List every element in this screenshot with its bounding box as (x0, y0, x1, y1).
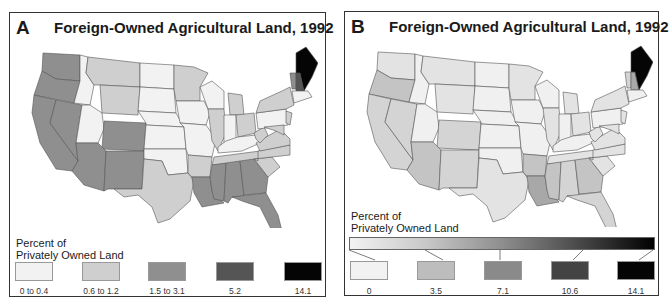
legend-label: 0 to 0.4 (4, 286, 64, 296)
state-oh (236, 113, 256, 137)
legend-swatch-class-5 (284, 262, 322, 281)
us-map-unclassed (363, 42, 653, 227)
state-fl (567, 192, 617, 227)
us-map-classed (28, 43, 318, 228)
panel-letter: B (351, 16, 365, 38)
state-fl (232, 193, 282, 228)
state-ar (523, 154, 547, 176)
legend-label: 3.5 (406, 286, 466, 296)
state-nj (621, 110, 627, 124)
state-mi (228, 93, 244, 115)
legend-label: 1.5 to 3.1 (137, 286, 197, 296)
panel-letter: A (16, 17, 30, 39)
state-vt (625, 72, 631, 88)
state-sd (138, 87, 176, 113)
state-mt (86, 57, 140, 87)
legend-label: 7.1 (473, 286, 533, 296)
state-nd (140, 63, 174, 89)
legend-label: 14.1 (273, 286, 333, 296)
legend-swatch-14-1 (617, 261, 655, 280)
state-ny (591, 86, 629, 112)
state-nm (439, 150, 479, 190)
state-ar (188, 155, 212, 177)
legend-swatch-0 (350, 261, 388, 280)
legend-title: Percent of Privately Owned Land (16, 237, 124, 261)
state-ma-ct-ri (292, 91, 312, 103)
state-wy (435, 84, 475, 114)
state-az (72, 143, 106, 191)
legend-label: 0.6 to 1.2 (71, 286, 131, 296)
state-nd (475, 62, 509, 88)
state-co (102, 121, 146, 151)
state-mi (563, 92, 579, 114)
panel-a-classed-map: A Foreign-Owned Agricultural Land, 1992 (9, 12, 326, 297)
legend-swatch-class-4 (216, 262, 254, 281)
map-title: Foreign-Owned Agricultural Land, 1992 (54, 19, 334, 36)
state-nm (104, 151, 144, 191)
state-mt (421, 56, 475, 86)
legend-label: 5.2 (205, 286, 265, 296)
state-wy (100, 85, 140, 115)
legend-swatch-3-5 (417, 261, 455, 280)
legend-swatch-10-6 (551, 261, 589, 280)
state-ma-ct-ri (627, 90, 647, 102)
legend-swatch-class-3 (148, 262, 186, 281)
state-vt (290, 73, 296, 89)
panel-b-unclassed-map: B Foreign-Owned Agricultural Land, 1992 (344, 11, 659, 296)
state-nj (286, 111, 292, 125)
legend-label: 0 (339, 286, 399, 296)
state-ia (511, 100, 545, 124)
state-az (407, 142, 441, 190)
legend-label: 10.6 (540, 286, 600, 296)
legend-label: 14.1 (606, 286, 666, 296)
state-co (437, 120, 481, 150)
legend-swatch-class-1 (15, 262, 53, 281)
map-title: Foreign-Owned Agricultural Land, 1992 (389, 18, 669, 35)
state-ks (144, 125, 186, 149)
state-sd (473, 86, 511, 112)
state-oh (571, 112, 591, 136)
legend-title: Percent of Privately Owned Land (351, 210, 459, 234)
legend-swatch-7-1 (484, 261, 522, 280)
state-ny (256, 87, 294, 113)
legend-connector-lines (345, 248, 660, 262)
state-ia (176, 101, 210, 125)
state-ks (479, 124, 521, 148)
legend-swatch-class-2 (82, 262, 120, 281)
